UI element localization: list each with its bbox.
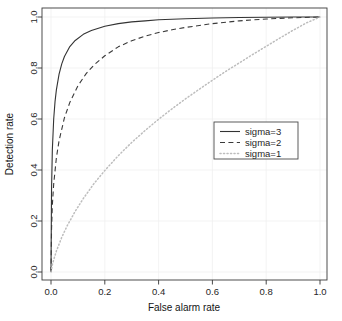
y-tick-label: 1.0	[28, 10, 39, 23]
y-tick-label: 0.4	[28, 163, 39, 176]
legend: sigma=3sigma=2sigma=1	[214, 122, 298, 159]
x-axis-ticks	[51, 280, 320, 285]
y-axis-ticks	[38, 17, 43, 272]
y-axis-tick-labels: 0.00.20.40.60.81.0	[28, 10, 39, 278]
x-tick-label: 0.8	[260, 286, 273, 297]
legend-label: sigma=1	[245, 148, 281, 159]
x-tick-label: 1.0	[313, 286, 326, 297]
roc-curve-figure: 0.00.20.40.60.81.0 0.00.20.40.60.81.0 Fa…	[0, 0, 342, 321]
y-tick-label: 0.8	[28, 61, 39, 74]
x-tick-label: 0.2	[98, 286, 111, 297]
x-tick-label: 0.6	[206, 286, 219, 297]
plot-canvas: 0.00.20.40.60.81.0 0.00.20.40.60.81.0 Fa…	[0, 0, 342, 321]
x-axis-title: False alarm rate	[148, 302, 221, 313]
y-tick-label: 0.2	[28, 214, 39, 227]
x-axis-tick-labels: 0.00.20.40.60.81.0	[44, 286, 326, 297]
x-tick-label: 0.0	[44, 286, 57, 297]
legend-label: sigma=3	[245, 126, 281, 137]
y-axis-title: Detection rate	[4, 112, 15, 175]
legend-label: sigma=2	[245, 137, 281, 148]
x-tick-label: 0.4	[152, 286, 165, 297]
y-tick-label: 0.6	[28, 112, 39, 125]
y-tick-label: 0.0	[28, 265, 39, 278]
